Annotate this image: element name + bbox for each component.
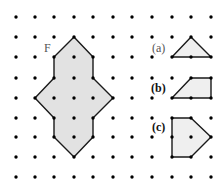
grid-dot xyxy=(14,135,17,138)
grid-dot xyxy=(111,96,114,99)
shapes-layer xyxy=(35,37,211,157)
grid-dot xyxy=(72,135,75,138)
grid-dot xyxy=(52,175,55,178)
grid-dot xyxy=(52,155,55,158)
grid-dot xyxy=(111,116,114,119)
grid-dot xyxy=(111,76,114,79)
grid-dot xyxy=(14,55,17,58)
grid-dot xyxy=(150,15,153,18)
grid-dot xyxy=(72,15,75,18)
grid-dot xyxy=(14,76,17,79)
grid-dot xyxy=(91,96,94,99)
grid-dot xyxy=(33,35,36,38)
grid-dot xyxy=(170,15,173,18)
grid-dot xyxy=(111,155,114,158)
grid-dot xyxy=(150,55,153,58)
grid-dot xyxy=(72,35,75,38)
grid-dot xyxy=(72,76,75,79)
grid-dot xyxy=(209,175,212,178)
grid-dot xyxy=(170,76,173,79)
grid-dot xyxy=(91,135,94,138)
label-F: F xyxy=(44,41,51,55)
grid-dot xyxy=(130,96,133,99)
grid-dot xyxy=(209,155,212,158)
grid-dot xyxy=(209,35,212,38)
grid-dot xyxy=(52,15,55,18)
grid-dot xyxy=(130,76,133,79)
grid-dot xyxy=(209,135,212,138)
grid-dot xyxy=(130,155,133,158)
grid-dot xyxy=(33,155,36,158)
grid-dot xyxy=(209,15,212,18)
grid-dot xyxy=(52,35,55,38)
grid-dot xyxy=(150,35,153,38)
grid-dot xyxy=(111,55,114,58)
grid-dot xyxy=(189,55,192,58)
grid-dot xyxy=(170,175,173,178)
grid-dot xyxy=(14,116,17,119)
grid-dot xyxy=(33,116,36,119)
grid-dot xyxy=(189,96,192,99)
grid-dot xyxy=(209,55,212,58)
label-c: (c) xyxy=(152,120,165,134)
grid-dot xyxy=(33,135,36,138)
grid-dot xyxy=(72,116,75,119)
grid-dot xyxy=(189,155,192,158)
shape-a xyxy=(172,37,211,57)
grid-dot xyxy=(111,135,114,138)
grid-dot xyxy=(91,116,94,119)
grid-dot xyxy=(14,155,17,158)
grid-dot xyxy=(130,175,133,178)
grid-dot xyxy=(150,155,153,158)
grid-dot xyxy=(14,15,17,18)
grid-dot xyxy=(14,35,17,38)
grid-dot xyxy=(150,135,153,138)
grid-dot xyxy=(150,175,153,178)
grid-dot xyxy=(130,35,133,38)
grid-dot xyxy=(91,15,94,18)
grid-dot xyxy=(150,76,153,79)
grid-dot xyxy=(130,55,133,58)
grid-dot xyxy=(130,116,133,119)
shape-b xyxy=(172,78,211,98)
grid-dot xyxy=(91,175,94,178)
grid-dot xyxy=(189,15,192,18)
grid-dot xyxy=(130,15,133,18)
grid-dot xyxy=(33,15,36,18)
grid-dot xyxy=(91,35,94,38)
grid-dot xyxy=(189,116,192,119)
grid-dot xyxy=(189,35,192,38)
grid-dot xyxy=(14,175,17,178)
grid-dot xyxy=(209,116,212,119)
grid-dot xyxy=(189,135,192,138)
grid-dot xyxy=(72,155,75,158)
grid-dot xyxy=(209,96,212,99)
grid-dot xyxy=(52,135,55,138)
grid-dot xyxy=(91,155,94,158)
grid-dot xyxy=(170,96,173,99)
grid-dot xyxy=(150,96,153,99)
label-a: (a) xyxy=(152,41,165,55)
grid-dot xyxy=(209,76,212,79)
grid-dot xyxy=(72,175,75,178)
grid-dot xyxy=(14,96,17,99)
grid-dot xyxy=(91,76,94,79)
grid-dot xyxy=(111,15,114,18)
grid-dot xyxy=(170,155,173,158)
grid-dot xyxy=(170,35,173,38)
dot-grid-diagram: F(a)(b)(c) xyxy=(0,0,224,183)
grid-dot xyxy=(111,175,114,178)
grid-dot xyxy=(130,135,133,138)
grid-dot xyxy=(52,76,55,79)
grid-dot xyxy=(170,55,173,58)
grid-dot xyxy=(72,55,75,58)
grid-dot xyxy=(111,35,114,38)
grid-dot xyxy=(170,116,173,119)
grid-dot xyxy=(33,76,36,79)
grid-dot xyxy=(72,96,75,99)
grid-dot xyxy=(189,175,192,178)
grid-dot xyxy=(170,135,173,138)
grid-dot xyxy=(52,116,55,119)
label-b: (b) xyxy=(151,81,166,95)
grid-dot xyxy=(33,175,36,178)
